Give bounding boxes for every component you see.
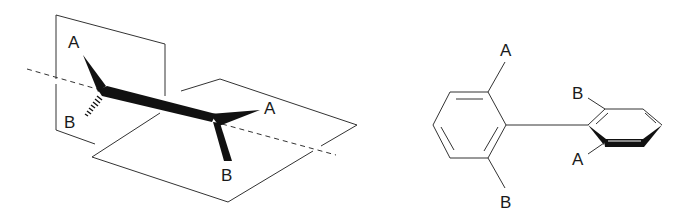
label-ring2-a: A	[572, 150, 584, 169]
label-left-a: A	[68, 33, 80, 52]
bond-ring2-a	[588, 143, 604, 154]
tilted-benzene-ring	[588, 109, 662, 147]
left-benzene-ring	[433, 92, 506, 158]
label-ring1-a: A	[500, 41, 512, 60]
label-ring2-b: B	[572, 84, 583, 103]
label-ring1-b: B	[500, 193, 511, 212]
hashed-bond-left-b	[85, 96, 102, 116]
bond-ring1-b	[488, 158, 505, 188]
bond-ring1-a	[488, 62, 505, 92]
axial-chirality-diagram: A B A B A B B A	[0, 0, 679, 223]
bond-ring2-b	[588, 98, 605, 109]
wedge-bond-left-a	[83, 55, 106, 92]
label-left-b: B	[64, 113, 75, 132]
right-panel-biphenyl: A B B A	[433, 41, 662, 212]
wedge-bond-right-b	[213, 122, 232, 161]
label-right-b: B	[221, 166, 232, 185]
diagram-canvas: A B A B A B B A	[0, 0, 679, 223]
left-panel-3d: A B A B	[27, 15, 357, 202]
central-bond	[98, 86, 216, 122]
label-right-a: A	[264, 99, 276, 118]
